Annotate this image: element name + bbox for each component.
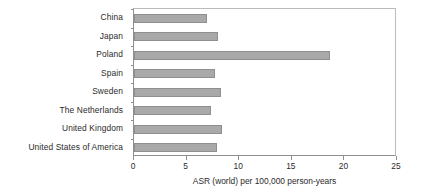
y-axis-tick (131, 139, 134, 140)
category-label: United Kingdom (0, 119, 128, 138)
x-axis-tick-labels: 0510152025 (133, 161, 396, 174)
category-label: United States of America (0, 138, 128, 157)
x-axis-tick (238, 156, 239, 160)
category-label: Japan (0, 27, 128, 46)
bar-row (134, 46, 395, 65)
category-label: Poland (0, 45, 128, 64)
x-axis-title: ASR (world) per 100,000 person-years (133, 176, 396, 186)
y-axis-tick (131, 83, 134, 84)
bar (134, 106, 211, 115)
x-axis-tick-label: 5 (183, 161, 188, 171)
bar (134, 51, 330, 60)
category-label: The Netherlands (0, 101, 128, 120)
category-label: Spain (0, 64, 128, 83)
x-axis-tick-label: 10 (234, 161, 243, 171)
x-axis-tick-label: 0 (131, 161, 136, 171)
x-axis-tick (186, 156, 187, 160)
x-axis-tick (396, 156, 397, 160)
bar-row (134, 28, 395, 47)
bar-row (134, 83, 395, 102)
x-axis-tick (133, 156, 134, 160)
x-axis-tick (291, 156, 292, 160)
y-axis-tick (131, 46, 134, 47)
category-label: Sweden (0, 82, 128, 101)
y-axis-tick (131, 102, 134, 103)
x-axis-tick-label: 20 (339, 161, 348, 171)
category-label: China (0, 8, 128, 27)
y-axis-tick (131, 28, 134, 29)
x-axis-tick-label: 25 (391, 161, 400, 171)
category-axis-labels: ChinaJapanPolandSpainSwedenThe Netherlan… (0, 8, 128, 156)
bar (134, 14, 207, 23)
bar (134, 143, 217, 152)
bar-row (134, 120, 395, 139)
bar-row (134, 139, 395, 158)
bar-row (134, 9, 395, 28)
bar (134, 88, 221, 97)
y-axis-tick (131, 65, 134, 66)
bar-chart: ChinaJapanPolandSpainSwedenThe Netherlan… (0, 0, 422, 195)
bar (134, 69, 215, 78)
bar (134, 32, 218, 41)
bar-row (134, 65, 395, 84)
y-axis-tick (131, 9, 134, 10)
y-axis-tick (131, 120, 134, 121)
plot-area (133, 8, 396, 156)
bar-rows (134, 9, 395, 155)
x-axis-tick (343, 156, 344, 160)
bar-row (134, 102, 395, 121)
bar (134, 125, 222, 134)
x-axis-tick-label: 15 (286, 161, 295, 171)
